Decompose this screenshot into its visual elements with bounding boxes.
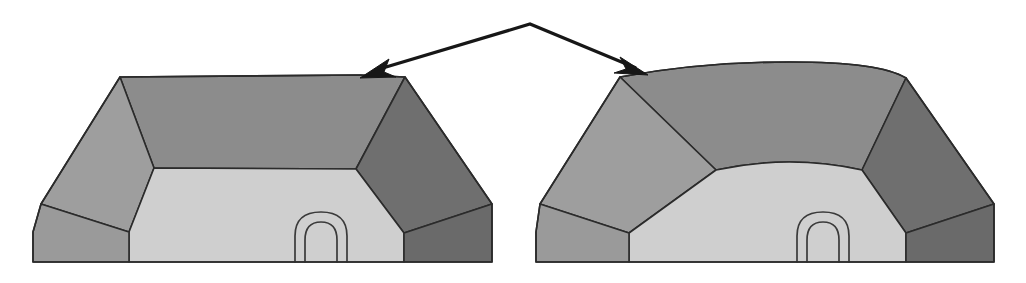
left-shape-back-wall (120, 75, 405, 169)
figure-canvas: Two three-dimensional bin shapes linked … (0, 0, 1026, 283)
figure-illustration (0, 0, 1026, 283)
left-shape-floor (129, 168, 404, 262)
